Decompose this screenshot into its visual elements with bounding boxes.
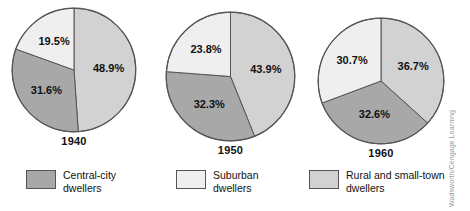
- year-label-1960: 1960: [317, 147, 445, 159]
- pie-chart-1950: 43.9%32.3%23.8% 1950: [165, 11, 296, 142]
- pie-slice-label: 19.5%: [38, 35, 69, 47]
- legend-swatch-suburban: [176, 170, 206, 189]
- legend-item-rural: Rural and small-town dwellers: [309, 169, 445, 194]
- legend-swatch-central-city: [26, 170, 56, 189]
- pie-chart-1940: 48.9%31.6%19.5% 1940: [11, 7, 137, 133]
- legend-label-central-city: Central-city dwellers: [63, 169, 116, 194]
- legend-item-central-city: Central-city dwellers: [26, 169, 176, 194]
- pie-slice-label: 48.9%: [93, 62, 124, 74]
- legend-swatch-rural: [309, 170, 339, 189]
- year-label-1950: 1950: [165, 144, 296, 156]
- pie-slice-label: 30.7%: [336, 54, 367, 66]
- pie-slice-label: 23.8%: [190, 43, 221, 55]
- legend-label-suburban: Suburban dwellers: [213, 169, 259, 194]
- legend-item-suburban: Suburban dwellers: [176, 169, 309, 194]
- pie-svg-1960: 36.7%32.6%30.7%: [317, 17, 445, 145]
- pie-slice-label: 31.6%: [31, 84, 62, 96]
- publisher-credit: Wadsworth/Cengage Learning: [455, 87, 469, 207]
- pie-slice-label: 36.7%: [398, 60, 429, 72]
- pie-slice-label: 32.3%: [194, 98, 225, 110]
- chart-legend: Central-city dwellers Suburban dwellers …: [26, 169, 445, 194]
- pie-chart-1960: 36.7%32.6%30.7% 1960: [317, 17, 445, 145]
- pie-svg-1950: 43.9%32.3%23.8%: [165, 11, 296, 142]
- year-label-1940: 1940: [11, 135, 137, 147]
- pie-slice-label: 43.9%: [250, 63, 281, 75]
- pie-svg-1940: 48.9%31.6%19.5%: [11, 7, 137, 133]
- pie-slice-label: 32.6%: [359, 108, 390, 120]
- publisher-credit-text: Wadsworth/Cengage Learning: [448, 110, 455, 207]
- pie-chart-figure: 48.9%31.6%19.5% 1940 43.9%32.3%23.8% 195…: [0, 0, 470, 211]
- legend-label-rural: Rural and small-town dwellers: [346, 169, 445, 194]
